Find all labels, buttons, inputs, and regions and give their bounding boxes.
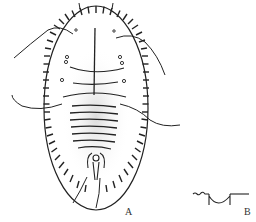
panel-a-label: A [125,206,132,217]
panel-b-detail [193,192,249,205]
panel-b-label: B [244,206,251,217]
insect-illustration [0,0,256,222]
panel-a-body [12,3,180,210]
